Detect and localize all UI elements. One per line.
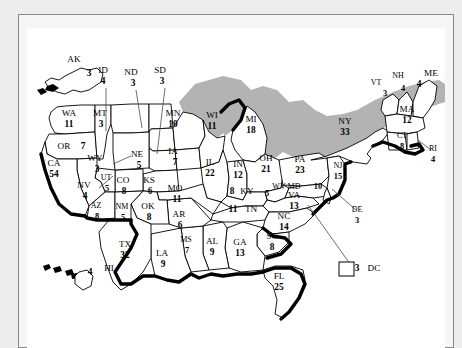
state-votes: 12	[402, 115, 412, 125]
state-votes: 5	[121, 213, 125, 222]
state-votes: 7	[185, 246, 189, 255]
state-votes: 33	[340, 127, 350, 137]
state-votes: 8	[270, 242, 275, 252]
state-abbrev: NM	[116, 202, 129, 211]
state-abbrev: FL	[274, 271, 285, 281]
state-abbrev: NV	[77, 180, 91, 190]
state-votes: 6	[178, 220, 183, 230]
state-abbrev: NH	[392, 71, 404, 80]
state-votes: 8	[95, 212, 99, 221]
state-abbrev: VA	[288, 190, 300, 200]
state-votes: 4	[431, 155, 436, 164]
state-label-pa[interactable]: PA23	[295, 154, 306, 175]
state-label-va[interactable]: VA13	[288, 190, 300, 211]
state-abbrev: MT	[93, 108, 107, 118]
state-votes: 21	[261, 164, 271, 174]
state-votes: 4	[417, 79, 422, 89]
page-background: AK3HI4WA11OR7ID4MT3ND3SD3MN10WI11MI18WY3…	[0, 0, 462, 348]
state-abbrev: CA	[48, 158, 61, 168]
state-votes: 15	[334, 172, 342, 181]
state-abbrev: TX	[119, 239, 132, 249]
state-label-in[interactable]: IN12	[233, 159, 243, 180]
state-votes: 32	[120, 250, 130, 260]
state-label-fl[interactable]: FL25	[274, 271, 285, 292]
state-abbrev: AR	[173, 209, 187, 219]
state-abbrev: LA	[156, 248, 169, 258]
state-label-de[interactable]: DE3	[352, 205, 363, 225]
state-abbrev: MO	[168, 183, 183, 193]
state-votes: 3	[87, 68, 92, 78]
state-votes: 11	[173, 194, 182, 204]
state-label-dc[interactable]: DC3	[355, 263, 381, 273]
state-abbrev: DC	[368, 263, 381, 273]
state-abbrev: CT	[397, 131, 407, 140]
state-abbrev: UT	[101, 173, 112, 182]
state-votes: 9	[161, 259, 166, 269]
state-label-il[interactable]: IL22	[205, 157, 215, 178]
state-label-wi[interactable]: WI11	[206, 110, 218, 131]
state-votes: 3	[383, 89, 387, 98]
state-abbrev: OR	[58, 141, 72, 151]
state-votes: 11	[229, 204, 238, 214]
state-label-nh[interactable]: NH4	[392, 71, 406, 93]
state-votes: 14	[279, 222, 289, 232]
state-votes: 7	[173, 157, 178, 167]
state-label-sd[interactable]: SD3	[154, 65, 166, 86]
state-abbrev: WI	[206, 110, 218, 120]
state-abbrev: PA	[295, 154, 306, 164]
state-votes: 6	[148, 186, 153, 196]
state-votes: 5	[105, 184, 109, 193]
state-votes: 3	[131, 78, 136, 88]
state-votes: 18	[246, 125, 256, 135]
state-abbrev: CO	[117, 175, 130, 185]
state-abbrev: WA	[62, 108, 77, 118]
state-label-ky[interactable]: KY8	[230, 186, 254, 196]
state-abbrev: TN	[245, 204, 258, 214]
state-label-mi[interactable]: MI18	[245, 114, 256, 135]
state-votes: 8	[400, 142, 404, 151]
state-abbrev: AZ	[91, 201, 102, 210]
state-label-ri[interactable]: RI4	[429, 144, 437, 164]
state-abbrev: ND	[124, 67, 138, 77]
state-votes: 3	[160, 76, 165, 86]
state-votes: 8	[230, 186, 235, 196]
state-votes: 4	[83, 191, 88, 201]
state-votes: 10	[168, 119, 178, 129]
state-votes: 3	[355, 216, 359, 225]
state-abbrev: AK	[67, 54, 81, 64]
us-electoral-map: AK3HI4WA11OR7ID4MT3ND3SD3MN10WI11MI18WY3…	[27, 28, 445, 348]
state-votes: 3	[355, 263, 360, 273]
state-votes: 11	[65, 119, 74, 129]
state-abbrev: OH	[259, 153, 273, 163]
state-abbrev: DE	[352, 205, 363, 214]
state-abbrev: MI	[245, 114, 256, 124]
state-votes: 9	[210, 247, 215, 257]
state-label-vt[interactable]: VT3	[371, 78, 387, 98]
state-votes: 11	[208, 121, 217, 131]
state-abbrev: ME	[424, 68, 438, 78]
state-votes: 4	[101, 76, 106, 86]
state-abbrev: IA	[168, 146, 178, 156]
state-votes: 13	[235, 248, 245, 258]
state-votes: 12	[233, 170, 243, 180]
state-abbrev: AL	[206, 236, 219, 246]
state-label-nc[interactable]: NC14	[278, 211, 291, 232]
state-label-tx[interactable]: TX32	[119, 239, 132, 260]
state-label-nd[interactable]: ND3	[124, 67, 138, 88]
state-abbrev: MN	[166, 108, 181, 118]
alaska-inset	[37, 68, 103, 95]
state-abbrev: IN	[233, 159, 243, 169]
state-abbrev: OK	[141, 201, 155, 211]
state-abbrev: KS	[143, 175, 155, 185]
state-abbrev: NY	[338, 116, 352, 126]
state-abbrev: SD	[154, 65, 166, 75]
state-abbrev: HI	[104, 263, 114, 273]
state-abbrev: MS	[180, 235, 192, 244]
state-votes: 4	[88, 267, 93, 277]
hawaii-inset	[43, 264, 93, 290]
state-abbrev: SC	[266, 231, 277, 241]
state-abbrev: NC	[278, 211, 291, 221]
state-abbrev: WY	[87, 153, 103, 163]
state-abbrev: ID	[98, 65, 108, 75]
state-votes: 8	[147, 212, 152, 222]
